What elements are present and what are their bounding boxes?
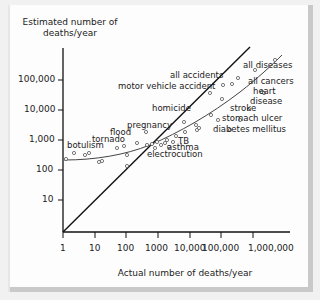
label-all-accidents: all accidents (170, 71, 223, 80)
y-tick-10: 10 (42, 195, 53, 204)
label-stomach-ulcer: stomach ulcer (222, 114, 282, 123)
x-ticks (63, 232, 253, 238)
label-homicide: homicide (152, 104, 191, 113)
label-heart: heart (253, 87, 276, 96)
label-all-diseases: all diseases (243, 61, 292, 70)
label-motor-vehicle-accident: motor vehicle accident (118, 82, 215, 91)
x-tick-100000: 100,000 (202, 244, 239, 253)
label-stroke: stroke (230, 104, 256, 113)
y-tick-10000: 10,000 (24, 105, 56, 114)
label-all-cancers: all cancers (248, 77, 294, 86)
y-tick-100000: 100,000 (18, 75, 55, 84)
x-tick-1000000: 1,000,000 (248, 244, 294, 253)
x-tick-10: 10 (89, 244, 100, 253)
y-axis-title: Estimated number of deaths/year (20, 17, 120, 40)
y-axis-title-line1: Estimated number of (20, 17, 120, 28)
label-botulism: botulism (67, 141, 104, 150)
x-tick-10000: 10,000 (174, 244, 206, 253)
x-tick-1: 1 (60, 244, 66, 253)
y-tick-1000: 1,000 (29, 135, 55, 144)
x-tick-100: 100 (117, 244, 134, 253)
y-tick-100: 100 (36, 165, 53, 174)
y-ticks (58, 80, 63, 200)
label-diabetes-mellitus: diabetes mellitus (213, 125, 286, 134)
x-tick-1000: 1000 (145, 244, 168, 253)
label-electrocution: electrocution (147, 150, 203, 159)
y-axis-title-line2: deaths/year (20, 28, 120, 39)
label-pregnancy: pregnancy (127, 121, 172, 130)
x-axis-title: Actual number of deaths/year (110, 268, 260, 279)
